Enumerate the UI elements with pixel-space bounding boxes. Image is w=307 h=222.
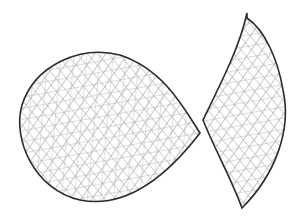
round-blob-shape xyxy=(20,52,200,201)
sketch-canvas xyxy=(0,0,307,222)
leaf-crescent-shape xyxy=(203,13,285,208)
